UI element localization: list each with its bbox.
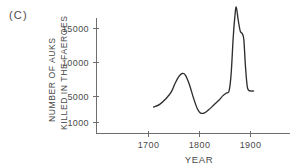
y-tick-label-5000: 5000 [67, 92, 89, 102]
data-series-auks-killed [154, 7, 254, 113]
chart-screenshot: (C) 15000 10000 5000 1000 1700 1800 1900… [0, 0, 308, 168]
auks-line-chart: 15000 10000 5000 1000 1700 1800 1900 YEA… [0, 0, 308, 168]
x-tick-label-1800: 1800 [189, 140, 211, 150]
y-tick-label-1000: 1000 [67, 118, 89, 128]
x-axis-title: YEAR [185, 154, 214, 165]
y-axis-title-line1: NUMBER OF AUKS [47, 37, 57, 122]
x-tick-label-1900: 1900 [240, 140, 262, 150]
x-tick-label-1700: 1700 [138, 140, 160, 150]
y-axis-title-line2: KILLED IN THE FAEROES [59, 15, 69, 130]
